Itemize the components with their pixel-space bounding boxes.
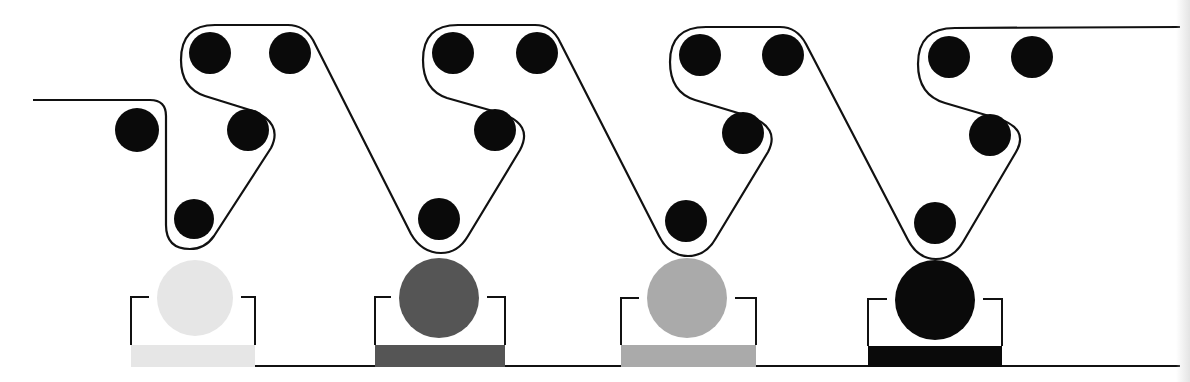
guide-roller-icon (722, 112, 764, 154)
guide-roller-icon (762, 34, 804, 76)
print-station-3 (621, 34, 804, 367)
ink-drum-light (157, 260, 233, 336)
ink-fountain-fill (621, 345, 756, 367)
ink-fountain-fill (131, 345, 255, 367)
conveyor-base-line (131, 345, 1180, 367)
guide-roller-icon (516, 32, 558, 74)
tray-bracket-left (621, 298, 639, 345)
tray-bracket-left (375, 297, 391, 345)
ink-drum-black (895, 260, 975, 340)
guide-roller-icon (269, 32, 311, 74)
guide-roller-icon (1011, 36, 1053, 78)
print-station-1 (115, 32, 311, 367)
ink-fountain-fill (868, 346, 1002, 367)
guide-roller-icon (969, 114, 1011, 156)
tray-bracket-right (983, 299, 1002, 346)
print-station-4 (868, 36, 1053, 367)
tray-bracket-right (487, 297, 505, 345)
print-stations (115, 32, 1053, 367)
guide-roller-icon (115, 108, 159, 152)
guide-roller-icon (189, 32, 231, 74)
guide-roller-icon (914, 202, 956, 244)
guide-roller-icon (432, 32, 474, 74)
guide-roller-icon (174, 199, 214, 239)
tray-bracket-left (868, 299, 887, 346)
tray-bracket-left (131, 297, 149, 345)
guide-roller-icon (418, 198, 460, 240)
printing-press-diagram (0, 0, 1190, 382)
guide-roller-icon (665, 200, 707, 242)
guide-roller-icon (474, 109, 516, 151)
guide-roller-icon (227, 109, 269, 151)
ink-fountain-fill (375, 345, 505, 367)
page-edge-shadow (1176, 0, 1190, 382)
ink-drum-dark-gray (399, 258, 479, 338)
print-station-2 (375, 32, 558, 367)
guide-roller-icon (679, 34, 721, 76)
ink-drum-mid-gray (647, 258, 727, 338)
tray-bracket-right (735, 298, 756, 345)
guide-roller-icon (928, 36, 970, 78)
tray-bracket-right (241, 297, 255, 345)
